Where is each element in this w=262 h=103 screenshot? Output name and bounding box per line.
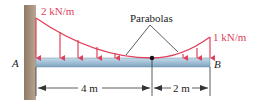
beam	[36, 58, 210, 67]
point-b-label: B	[214, 59, 221, 70]
parabolas-leaders	[126, 25, 178, 55]
point-a-label: A	[12, 58, 19, 69]
fixed-wall	[24, 5, 36, 100]
load-right-label: 1 kN/m	[213, 32, 246, 43]
load-curve	[36, 18, 210, 58]
dim-left-label: 4 m	[81, 83, 98, 94]
dim-right-label: 2 m	[173, 83, 190, 94]
parabolas-label: Parabolas	[130, 13, 173, 24]
load-left-label: 2 kN/m	[41, 6, 74, 17]
vertex-point	[150, 56, 154, 60]
